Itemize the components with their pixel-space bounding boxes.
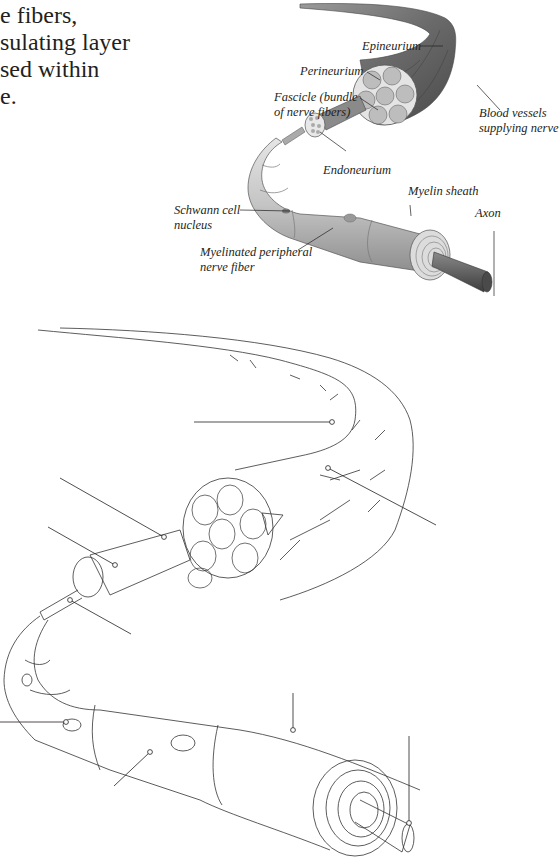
leader-dot <box>113 563 118 568</box>
label-myelin-sheath: Myelin sheath <box>408 184 478 199</box>
leader-dot <box>64 720 69 725</box>
label-epineurium: Epineurium <box>362 39 421 54</box>
cross-section-outline <box>183 478 273 578</box>
label-fascicle: Fascicle (bundle of nerve fibers) <box>274 90 358 120</box>
blank-leader-lines <box>0 420 436 826</box>
leader-dot <box>162 535 167 540</box>
epineurium-outline <box>38 330 356 470</box>
label-myelinated-fiber: Myelinated peripheral nerve fiber <box>200 245 312 275</box>
label-endoneurium: Endoneurium <box>323 163 391 178</box>
label-axon: Axon <box>475 206 501 221</box>
leader-dot <box>407 821 412 826</box>
leader-dot <box>148 750 153 755</box>
leader-dot <box>326 466 331 471</box>
leader-dot <box>330 420 335 425</box>
label-schwann-cell-nucleus: Schwann cell nucleus <box>174 203 240 233</box>
label-blood-vessels: Blood vessels supplying nerve <box>479 106 559 136</box>
leader-dot <box>291 728 296 733</box>
label-perineurium: Perineurium <box>300 64 363 79</box>
leader-dot <box>68 598 73 603</box>
